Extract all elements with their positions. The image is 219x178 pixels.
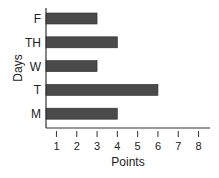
x-tick-label-3: 3 [94,140,100,152]
bar-f [46,13,97,24]
bars [46,13,158,119]
category-label-t: T [34,83,42,97]
category-label-th: TH [25,36,41,50]
x-tick-label-4: 4 [114,140,120,152]
bar-th [46,37,117,48]
bar-w [46,61,97,72]
x-axis-ticks: 12345678 [53,131,201,152]
x-tick-label-8: 8 [195,140,201,152]
bar-m [46,108,117,119]
bar-t [46,84,158,95]
x-tick-label-1: 1 [53,140,59,152]
x-tick-label-6: 6 [155,140,161,152]
y-axis-title: Days [11,54,25,81]
category-label-f: F [34,12,41,26]
horizontal-bar-chart: FTHWTM 12345678 Points Days [0,0,219,178]
category-label-m: M [31,107,41,121]
x-tick-label-2: 2 [74,140,80,152]
x-axis-title: Points [111,155,144,169]
x-tick-label-5: 5 [135,140,141,152]
category-labels: FTHWTM [25,12,42,121]
category-label-w: W [30,60,42,74]
x-tick-label-7: 7 [175,140,181,152]
